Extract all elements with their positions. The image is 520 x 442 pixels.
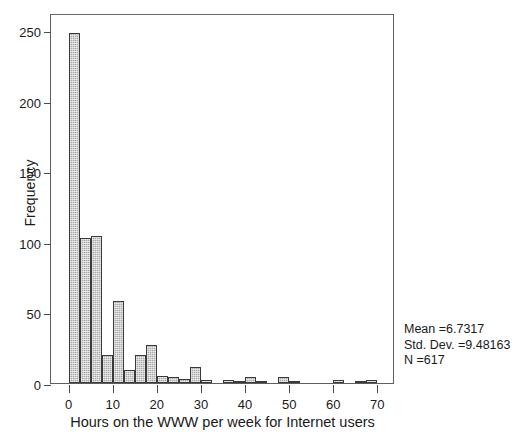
y-tick-mark: [44, 173, 51, 174]
bar-series: [51, 15, 393, 383]
histogram-bar: [289, 381, 300, 383]
x-tick-mark: [245, 385, 246, 393]
x-tick-mark: [289, 385, 290, 393]
x-tick-label: 50: [282, 397, 296, 412]
histogram-bar: [201, 380, 212, 383]
y-tick-mark: [44, 32, 51, 33]
histogram-figure: Frequency 050100150200250 01020304050607…: [0, 0, 520, 442]
histogram-bar: [91, 236, 102, 383]
histogram-bar: [179, 379, 190, 383]
x-tick-mark: [157, 385, 158, 393]
y-tick-label: 100: [19, 236, 41, 251]
histogram-bar: [245, 377, 256, 383]
histogram-bar: [256, 381, 267, 383]
histogram-bar: [124, 370, 135, 383]
y-tick-mark: [44, 314, 51, 315]
x-tick-label: 40: [238, 397, 252, 412]
histogram-bar: [278, 377, 289, 383]
histogram-bar: [157, 376, 168, 383]
plot-area: 050100150200250 010203040506070: [50, 14, 394, 384]
y-tick-label: 200: [19, 95, 41, 110]
histogram-bar: [113, 301, 124, 383]
stat-n: N =617: [404, 353, 510, 369]
histogram-bar: [366, 380, 377, 383]
x-tick-mark: [377, 385, 378, 393]
histogram-bar: [190, 367, 201, 383]
y-tick-label: 250: [19, 24, 41, 39]
statistics-annotation: Mean =6.7317 Std. Dev. =9.48163 N =617: [404, 322, 510, 369]
x-axis-title: Hours on the WWW per week for Internet u…: [50, 414, 395, 430]
histogram-bar: [135, 355, 146, 383]
histogram-bar: [146, 345, 157, 383]
y-tick-label: 50: [27, 307, 41, 322]
histogram-bar: [168, 377, 179, 383]
y-tick-mark: [44, 385, 51, 386]
stat-mean: Mean =6.7317: [404, 322, 510, 338]
y-tick-mark: [44, 103, 51, 104]
x-tick-mark: [333, 385, 334, 393]
x-tick-label: 10: [106, 397, 120, 412]
stat-std-dev: Std. Dev. =9.48163: [404, 338, 510, 354]
x-tick-label: 0: [65, 397, 72, 412]
histogram-bar: [234, 381, 245, 383]
y-tick-label: 0: [34, 378, 41, 393]
histogram-bar: [333, 380, 344, 383]
x-tick-mark: [69, 385, 70, 393]
y-tick-mark: [44, 244, 51, 245]
x-tick-mark: [201, 385, 202, 393]
x-tick-label: 70: [370, 397, 384, 412]
histogram-bar: [223, 380, 234, 383]
x-tick-label: 20: [150, 397, 164, 412]
histogram-bar: [69, 33, 80, 383]
histogram-bar: [102, 355, 113, 383]
histogram-bar: [80, 238, 91, 383]
y-tick-label: 150: [19, 166, 41, 181]
histogram-bar: [355, 381, 366, 383]
x-tick-label: 30: [194, 397, 208, 412]
x-tick-mark: [113, 385, 114, 393]
x-tick-label: 60: [326, 397, 340, 412]
